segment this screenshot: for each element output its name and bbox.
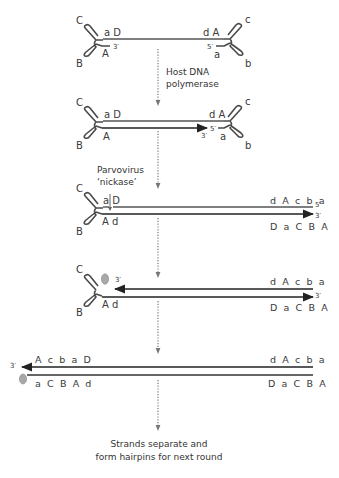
hairpin-label-C: C — [76, 15, 83, 26]
seq-label: A d — [102, 216, 118, 227]
end-label-3prime: 3′ — [113, 43, 119, 51]
hairpin-label-c: c — [245, 96, 251, 107]
end-label-3prime: 3′ — [115, 276, 121, 284]
end-label-3prime: 3′ — [10, 362, 16, 370]
seq-label: d A c b a — [270, 354, 326, 365]
step1-molecule: C B c b a D d A A 3′ 5′ a — [76, 14, 251, 69]
seq-label: A — [103, 131, 110, 142]
hairpin-label-B: B — [76, 307, 83, 318]
end-label-3prime: 3′ — [201, 132, 207, 140]
seq-label: a D — [104, 27, 121, 38]
transition-label: Host DNA — [166, 67, 210, 77]
hairpin-label-b: b — [245, 140, 251, 151]
left-hairpin-icon — [84, 193, 103, 225]
hairpin-label-B: B — [76, 226, 83, 237]
nickase-protein-icon — [19, 374, 26, 384]
hairpin-label-b: b — [245, 58, 251, 69]
nickase-protein-icon — [101, 274, 108, 284]
seq-label: d A — [209, 109, 226, 120]
seq-label: A — [102, 48, 109, 59]
final-caption: Strands separate and form hairpins for n… — [96, 439, 223, 462]
seq-label: a C B A d — [35, 378, 93, 389]
transition-label: ‘nickase’ — [97, 177, 137, 187]
seq-label: a D — [103, 195, 120, 206]
seq-label: A c b a D — [35, 354, 92, 365]
hairpin-label-C: C — [76, 183, 83, 194]
seq-label: d A c b a — [270, 276, 326, 287]
transition-label: polymerase — [166, 79, 219, 89]
end-label-5prime: 5′ — [315, 201, 321, 209]
step4-molecule: C B 3′ A d d A c b a 3′ D a C B A — [76, 264, 329, 318]
left-hairpin-icon — [84, 107, 103, 139]
step3-molecule: C B a D A d d A c b a 5′ 3′ D a C B A — [76, 183, 329, 237]
caption-line2: form hairpins for next round — [96, 452, 223, 462]
seq-label: D a C B A — [270, 221, 329, 232]
hairpin-label-B: B — [76, 58, 83, 69]
seq-label: a D — [104, 109, 121, 120]
transition-label: Parvovirus — [97, 165, 144, 175]
step2-molecule: C B c b a D d A A 3′ 5′ a — [76, 96, 251, 151]
seq-label: A d — [102, 299, 118, 310]
end-label-5prime: 5′ — [207, 43, 213, 51]
hairpin-label-c: c — [245, 14, 251, 25]
caption-line1: Strands separate and — [111, 439, 208, 449]
hairpin-label-C: C — [76, 97, 83, 108]
seq-label: d A — [203, 27, 220, 38]
left-hairpin-icon — [84, 275, 102, 307]
seq-label: a — [220, 131, 226, 142]
seq-label: D a C B A — [270, 302, 329, 313]
transition-host-dna-polymerase: Host DNA polymerase — [158, 49, 219, 103]
seq-label: a — [214, 49, 220, 60]
hairpin-label-B: B — [76, 140, 83, 151]
end-label-3prime: 3′ — [315, 292, 321, 300]
step5-molecule: 3′ A c b a D a C B A d d A c b a D a C B… — [10, 354, 327, 389]
end-label-5prime: 5′ — [210, 125, 216, 133]
hairpin-label-C: C — [76, 264, 83, 275]
replication-diagram: C B c b a D d A A 3′ 5′ a Host DNA polym… — [0, 0, 339, 478]
end-label-3prime: 3′ — [315, 212, 321, 220]
seq-label: D a C B A — [268, 378, 327, 389]
